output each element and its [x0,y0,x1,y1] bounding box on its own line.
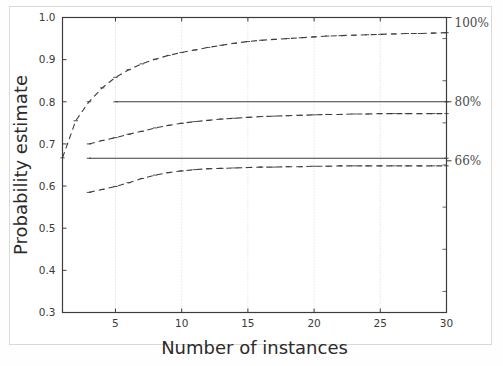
y-axis-title: Probability estimate [10,75,31,255]
xtick-label: 30 [440,317,453,329]
ytick-label: 0.9 [39,53,56,65]
series-80-curve [89,114,447,144]
ytick-label: 0.6 [39,180,56,192]
ytick-label: 1.0 [39,11,56,23]
x-axis-title: Number of instances [161,337,348,358]
ytick-label: 0.7 [39,138,56,150]
ytick-label: 0.4 [39,264,56,276]
right-annotation-label: 100% [455,16,489,30]
xtick-label: 25 [374,317,387,329]
chart-figure: 510152025300.30.40.50.60.70.80.91.0100%8… [0,0,503,366]
axes-frame [63,18,447,313]
right-annotation-label: 66% [455,154,482,168]
xtick-label: 10 [175,317,188,329]
right-annotation-label: 80% [455,95,482,109]
ytick-label: 0.3 [39,306,56,318]
series-66-curve [89,166,447,193]
plot-canvas: 510152025300.30.40.50.60.70.80.91.0100%8… [0,0,503,366]
ytick-label: 0.8 [39,96,56,108]
xtick-label: 5 [112,317,119,329]
ytick-label: 0.5 [39,222,56,234]
series-100-curve [63,33,447,158]
xtick-label: 20 [307,317,320,329]
xtick-label: 15 [241,317,254,329]
